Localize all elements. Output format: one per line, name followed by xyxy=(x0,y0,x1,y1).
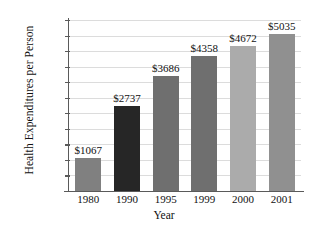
grid-line xyxy=(69,67,301,68)
bar: $3686 xyxy=(153,76,179,191)
grid-line xyxy=(69,51,301,52)
y-axis-tick xyxy=(65,20,70,21)
grid-line xyxy=(69,144,301,145)
x-axis-title: Year xyxy=(0,209,310,221)
bar-value-label: $5035 xyxy=(268,20,296,32)
x-axis-tick-label: 2001 xyxy=(257,193,307,205)
grid-line xyxy=(69,175,301,176)
y-axis-tick xyxy=(65,160,70,161)
bar: $5035 xyxy=(269,34,295,191)
bar-value-label: $2737 xyxy=(113,92,141,104)
bar-value-label: $3686 xyxy=(152,62,180,74)
grid-line xyxy=(69,20,301,21)
bar: $4358 xyxy=(191,56,217,191)
bar-chart: Health Expenditures per Person $1067$273… xyxy=(0,0,310,229)
y-axis-tick xyxy=(65,51,70,52)
grid-line xyxy=(69,36,301,37)
x-axis-title-text: Year xyxy=(153,209,174,221)
grid-line xyxy=(69,98,301,99)
y-axis-tick xyxy=(65,67,70,68)
y-axis-tick xyxy=(65,175,70,176)
bar: $1067 xyxy=(75,158,101,191)
grid-line xyxy=(69,160,301,161)
bar-value-label: $4672 xyxy=(229,32,257,44)
bar: $2737 xyxy=(114,106,140,191)
grid-line xyxy=(69,113,301,114)
grid-line xyxy=(69,82,301,83)
plot-area: $1067$2737$3686$4358$4672$5035 xyxy=(69,20,301,191)
y-axis-tick xyxy=(65,98,70,99)
y-axis-tick xyxy=(65,113,70,114)
bar: $4672 xyxy=(230,46,256,191)
grid-line xyxy=(69,129,301,130)
y-axis-tick xyxy=(65,36,70,37)
bar-value-label: $4358 xyxy=(191,42,219,54)
y-axis-tick xyxy=(65,129,70,130)
bar-value-label: $1067 xyxy=(75,144,103,156)
y-axis-title: Health Expenditures per Person xyxy=(23,15,35,185)
y-axis-tick xyxy=(65,82,70,83)
y-axis-tick xyxy=(65,144,70,145)
